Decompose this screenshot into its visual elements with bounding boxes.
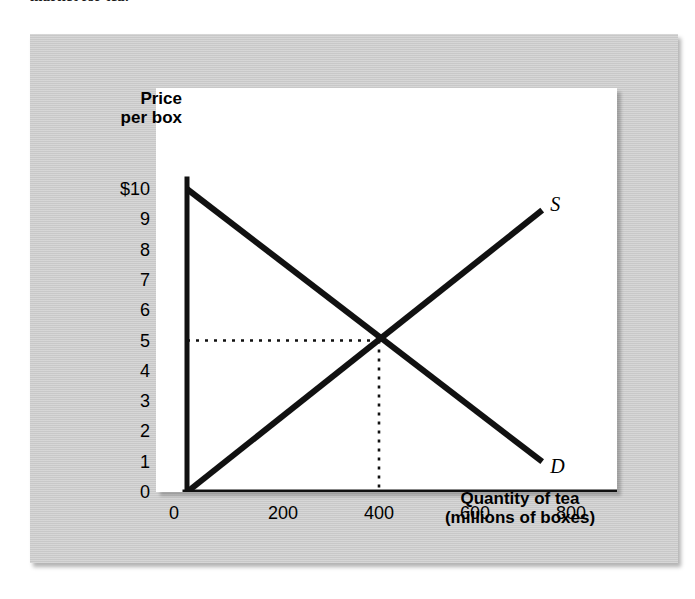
curve-label-demand: D [550, 456, 564, 476]
x-tick-label-0: 0 [144, 504, 204, 522]
curve-label-supply: S [550, 194, 560, 214]
page-caption-sliver: market for tea. [30, 0, 330, 4]
x-tick-label-400: 400 [349, 504, 409, 522]
figure-panel: Price per box Quantity of tea (millions … [30, 34, 678, 563]
x-tick-label-600: 600 [445, 504, 505, 522]
x-tick-label-800: 800 [541, 504, 601, 522]
x-axis-tick-labels: 0200400600800 [30, 34, 678, 563]
x-tick-label-200: 200 [253, 504, 313, 522]
